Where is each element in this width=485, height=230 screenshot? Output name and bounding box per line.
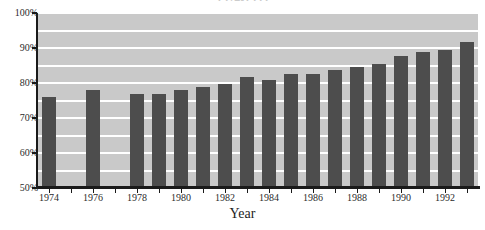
y-axis-line bbox=[36, 13, 38, 189]
bar bbox=[372, 64, 386, 188]
bar bbox=[86, 90, 100, 188]
y-axis-tick bbox=[32, 187, 37, 189]
bar-chart: 1974-1993 50%60%70%80%90%100% 1974197619… bbox=[0, 0, 485, 230]
bar bbox=[460, 42, 474, 188]
x-axis-tick bbox=[291, 189, 292, 193]
x-axis-tick-label: 1992 bbox=[425, 192, 465, 203]
x-axis-tick-label: 1976 bbox=[73, 192, 113, 203]
bar bbox=[306, 74, 320, 188]
y-axis-tick bbox=[32, 117, 37, 119]
bar bbox=[42, 97, 56, 188]
x-axis-tick-label: 1988 bbox=[337, 192, 377, 203]
bar bbox=[394, 56, 408, 188]
bar bbox=[416, 52, 430, 188]
y-axis-tick bbox=[32, 152, 37, 154]
x-axis-tick bbox=[203, 189, 204, 193]
bar bbox=[218, 84, 232, 188]
x-axis-tick-label: 1980 bbox=[161, 192, 201, 203]
chart-title: 1974-1993 bbox=[0, 0, 485, 1]
y-axis-tick bbox=[32, 82, 37, 84]
bar bbox=[240, 77, 254, 188]
x-axis-tick-label: 1990 bbox=[381, 192, 421, 203]
x-axis-tick-label: 1978 bbox=[117, 192, 157, 203]
bars-layer bbox=[38, 13, 478, 188]
x-axis-tick-label: 1974 bbox=[29, 192, 69, 203]
bar bbox=[130, 94, 144, 189]
y-axis-tick bbox=[32, 47, 37, 49]
x-axis-tick-label: 1984 bbox=[249, 192, 289, 203]
x-axis-tick bbox=[423, 189, 424, 193]
x-axis-tick-label: 1986 bbox=[293, 192, 333, 203]
bar bbox=[196, 87, 210, 189]
x-axis-title: Year bbox=[0, 206, 485, 222]
bar bbox=[174, 90, 188, 188]
x-axis-tick bbox=[71, 189, 72, 193]
bar bbox=[328, 70, 342, 188]
x-axis-tick bbox=[467, 189, 468, 193]
bar bbox=[438, 50, 452, 188]
plot-area bbox=[38, 13, 478, 188]
x-axis-tick bbox=[159, 189, 160, 193]
x-axis-tick bbox=[247, 189, 248, 193]
bar bbox=[284, 74, 298, 188]
x-axis-tick-label: 1982 bbox=[205, 192, 245, 203]
x-axis-tick bbox=[379, 189, 380, 193]
x-axis-tick bbox=[115, 189, 116, 193]
bar bbox=[152, 94, 166, 189]
x-axis-tick bbox=[335, 189, 336, 193]
y-axis-tick bbox=[32, 12, 37, 14]
bar bbox=[350, 67, 364, 188]
bar bbox=[262, 80, 276, 188]
x-axis-line bbox=[36, 186, 480, 189]
